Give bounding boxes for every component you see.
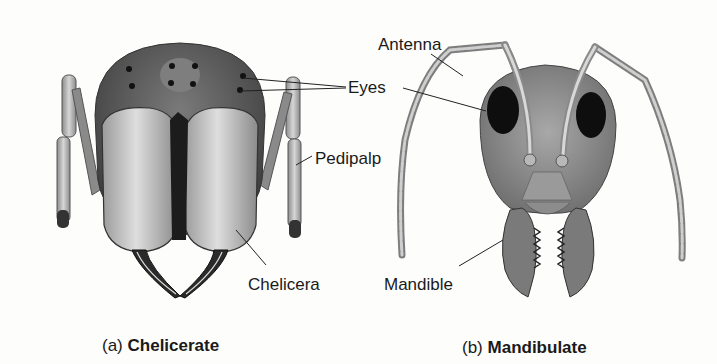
- chelicerae: [102, 108, 258, 298]
- caption-a-title: Chelicerate: [128, 336, 220, 355]
- illustration: [0, 0, 717, 364]
- chelicerate-head: [57, 43, 301, 298]
- caption-b-prefix: (b): [462, 338, 483, 357]
- label-eyes: Eyes: [348, 79, 386, 96]
- caption-b-title: Mandibulate: [488, 338, 587, 357]
- label-chelicera: Chelicera: [248, 276, 320, 293]
- pedipalp-left: [57, 75, 100, 228]
- label-pedipalp: Pedipalp: [315, 150, 381, 167]
- label-mandible: Mandible: [384, 276, 453, 293]
- caption-b: (b) Mandibulate: [462, 339, 587, 356]
- label-antenna: Antenna: [378, 36, 441, 53]
- pedipalp-right: [260, 77, 301, 238]
- caption-a-prefix: (a): [102, 336, 123, 355]
- caption-a: (a) Chelicerate: [102, 337, 219, 354]
- figure-chelicerate-vs-mandibulate: Antenna Eyes Pedipalp Chelicera Mandible…: [0, 0, 717, 364]
- mandibles: [502, 208, 594, 297]
- eye-left: [487, 86, 519, 134]
- eye-right: [576, 92, 606, 138]
- mandibulate-head: [401, 45, 683, 297]
